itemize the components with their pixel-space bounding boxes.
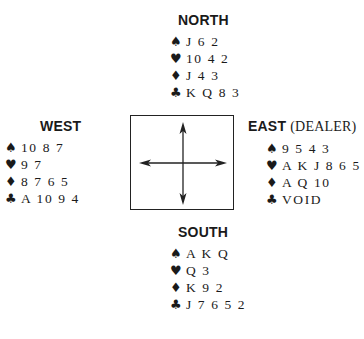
north-spades-cards: J 6 2 bbox=[186, 34, 220, 49]
east-clubs: ♣VOID bbox=[266, 191, 361, 208]
spade-icon: ♠ bbox=[170, 33, 186, 50]
diamond-icon: ♦ bbox=[5, 173, 21, 190]
west-diamonds: ♦8 7 6 5 bbox=[5, 173, 81, 190]
north-spades: ♠J 6 2 bbox=[170, 33, 240, 50]
spade-icon: ♠ bbox=[266, 140, 282, 157]
diamond-icon: ♦ bbox=[170, 67, 186, 84]
compass-box bbox=[130, 115, 234, 210]
club-icon: ♣ bbox=[170, 84, 186, 101]
south-diamonds-cards: K 9 2 bbox=[186, 280, 224, 295]
diamond-icon: ♦ bbox=[170, 279, 186, 296]
east-diamonds-cards: A Q 10 bbox=[282, 175, 331, 190]
heart-icon: ♥ bbox=[170, 262, 186, 279]
heart-icon: ♥ bbox=[5, 156, 21, 173]
west-clubs-cards: A 10 9 4 bbox=[21, 191, 80, 206]
west-spades: ♠10 8 7 bbox=[5, 139, 81, 156]
south-spades: ♠A K Q bbox=[170, 245, 246, 262]
south-spades-cards: A K Q bbox=[186, 246, 229, 261]
north-diamonds: ♦J 4 3 bbox=[170, 67, 240, 84]
south-diamonds: ♦K 9 2 bbox=[170, 279, 246, 296]
heart-icon: ♥ bbox=[266, 157, 282, 174]
east-title-label: EAST bbox=[248, 118, 286, 134]
club-icon: ♣ bbox=[266, 191, 282, 208]
south-hearts: ♥Q 3 bbox=[170, 262, 246, 279]
north-hearts-cards: 10 4 2 bbox=[186, 51, 229, 66]
north-hearts: ♥10 4 2 bbox=[170, 50, 240, 67]
south-clubs-cards: J 7 6 5 2 bbox=[186, 297, 246, 312]
spade-icon: ♠ bbox=[170, 245, 186, 262]
west-title: WEST bbox=[40, 118, 81, 134]
club-icon: ♣ bbox=[5, 190, 21, 207]
north-hand: NORTH ♠J 6 2 ♥10 4 2 ♦J 4 3 ♣K Q 8 3 bbox=[170, 12, 240, 101]
south-clubs: ♣J 7 6 5 2 bbox=[170, 296, 246, 313]
east-hearts: ♥A K J 8 6 5 bbox=[266, 157, 361, 174]
east-spades: ♠9 5 4 3 bbox=[266, 140, 361, 157]
east-diamonds: ♦A Q 10 bbox=[266, 174, 361, 191]
west-spades-cards: 10 8 7 bbox=[21, 140, 64, 155]
east-clubs-cards: VOID bbox=[282, 192, 322, 207]
west-hand: WEST ♠10 8 7 ♥9 7 ♦8 7 6 5 ♣A 10 9 4 bbox=[5, 118, 81, 207]
east-title: EAST (DEALER) bbox=[248, 118, 361, 135]
east-hand: EAST (DEALER) ♠9 5 4 3 ♥A K J 8 6 5 ♦A Q… bbox=[248, 118, 361, 208]
compass-arrows-icon bbox=[131, 116, 235, 211]
west-hearts-cards: 9 7 bbox=[21, 157, 43, 172]
north-clubs-cards: K Q 8 3 bbox=[186, 85, 240, 100]
club-icon: ♣ bbox=[170, 296, 186, 313]
west-diamonds-cards: 8 7 6 5 bbox=[21, 174, 69, 189]
diamond-icon: ♦ bbox=[266, 174, 282, 191]
spade-icon: ♠ bbox=[5, 139, 21, 156]
east-spades-cards: 9 5 4 3 bbox=[282, 141, 330, 156]
south-title: SOUTH bbox=[178, 224, 246, 240]
west-hearts: ♥9 7 bbox=[5, 156, 81, 173]
south-hand: SOUTH ♠A K Q ♥Q 3 ♦K 9 2 ♣J 7 6 5 2 bbox=[170, 224, 246, 313]
south-hearts-cards: Q 3 bbox=[186, 263, 211, 278]
north-clubs: ♣K Q 8 3 bbox=[170, 84, 240, 101]
north-diamonds-cards: J 4 3 bbox=[186, 68, 220, 83]
east-hearts-cards: A K J 8 6 5 bbox=[282, 158, 361, 173]
dealer-label: (DEALER) bbox=[290, 119, 356, 134]
west-clubs: ♣A 10 9 4 bbox=[5, 190, 81, 207]
north-title: NORTH bbox=[178, 12, 240, 28]
heart-icon: ♥ bbox=[170, 50, 186, 67]
